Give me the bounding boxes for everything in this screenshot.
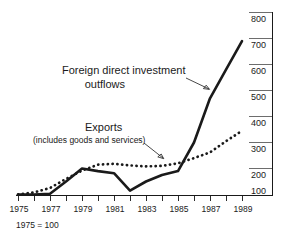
x-axis-label-1979: 1979 (74, 204, 93, 214)
y-axis-label-300: 300 (251, 144, 266, 154)
x-axis-label-1983: 1983 (138, 204, 157, 214)
x-axis-label-1981: 1981 (106, 204, 125, 214)
y-axis-label-600: 600 (251, 66, 266, 76)
fdi-annotation-leader (186, 78, 210, 89)
fdi-annotation-line1: Foreign direct investment (62, 64, 186, 76)
y-axis-label-700: 700 (251, 40, 266, 50)
x-axis-label-1989: 1989 (234, 204, 253, 214)
y-axis-label-500: 500 (251, 92, 266, 102)
x-axis-labels: 1975 1977 1979 1981 1983 1985 1987 1989 (10, 204, 253, 214)
line-chart: 800 700 600 500 400 300 200 100 (0, 0, 286, 239)
exports-annotation: Exports (includes goods and services) (33, 121, 146, 145)
base-index-note: 1975 = 100 (16, 220, 59, 230)
x-axis-label-1977: 1977 (42, 204, 61, 214)
y-axis-label-800: 800 (251, 14, 266, 24)
fdi-annotation-line2: outflows (85, 78, 126, 90)
fdi-annotation: Foreign direct investment outflows (62, 64, 186, 90)
x-axis-label-1985: 1985 (170, 204, 189, 214)
exports-annotation-leader (144, 143, 164, 159)
x-axis-ticks (19, 196, 243, 201)
x-axis-label-1987: 1987 (202, 204, 221, 214)
y-axis-label-400: 400 (251, 118, 266, 128)
x-axis-label-1975: 1975 (10, 204, 29, 214)
exports-annotation-line1: Exports (85, 121, 123, 133)
chart-container: 800 700 600 500 400 300 200 100 (0, 0, 286, 239)
exports-annotation-line2: (includes goods and services) (33, 135, 146, 145)
y-axis-label-100: 100 (251, 186, 266, 196)
y-axis-label-200: 200 (251, 170, 266, 180)
